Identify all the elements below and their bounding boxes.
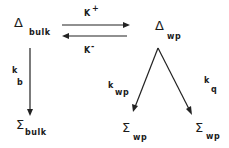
- kwp-subscript: wp: [115, 89, 129, 97]
- k-minus-label: K: [84, 47, 90, 55]
- sigma-wp-right-subscript: wp: [206, 133, 220, 141]
- delta-bulk-subscript: bulk: [29, 29, 50, 37]
- wp-decay-arrow: [132, 48, 158, 112]
- delta-bulk-symbol: Δ: [14, 16, 23, 29]
- kinetics-diagram: Δ bulk Δ wp K + K - k b k wp k q Σ bulk …: [0, 0, 229, 148]
- sigma-wp-left-symbol: Σ: [122, 121, 130, 134]
- kq-subscript: q: [211, 86, 217, 94]
- k-plus-label: K: [84, 10, 90, 18]
- k-plus-superscript: +: [92, 5, 99, 13]
- sigma-bulk-subscript: bulk: [25, 129, 46, 137]
- kq-label: k: [204, 77, 209, 85]
- bulk-decay-arrow: [27, 48, 33, 116]
- kwp-label: k: [108, 82, 113, 90]
- delta-wp-subscript: wp: [167, 33, 181, 41]
- sigma-wp-right-symbol: Σ: [195, 121, 203, 134]
- sigma-bulk-symbol: Σ: [16, 118, 24, 131]
- delta-wp-symbol: Δ: [155, 19, 164, 32]
- quench-arrow: [158, 48, 192, 115]
- sigma-wp-left-subscript: wp: [133, 134, 147, 142]
- forward-arrow: [62, 22, 130, 28]
- kb-label: k: [12, 67, 17, 75]
- reverse-arrow: [62, 33, 127, 39]
- kb-subscript: b: [17, 79, 23, 87]
- k-minus-superscript: -: [91, 43, 94, 51]
